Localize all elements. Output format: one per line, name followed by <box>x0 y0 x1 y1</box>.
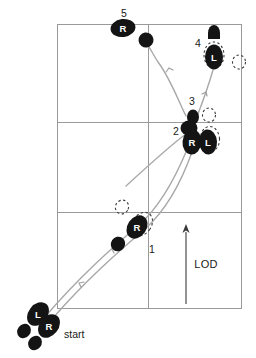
footprint-step-4-left: L <box>205 45 223 70</box>
footwork-diagram-root: L R R R L <box>0 0 256 358</box>
step-number-3: 3 <box>189 95 195 107</box>
step-number-5: 5 <box>121 7 127 19</box>
footprint-label-step-2-right: R <box>189 137 196 148</box>
path-direction-arrows <box>79 68 207 287</box>
ghost-footprints-group <box>113 42 246 240</box>
step-number-4: 4 <box>195 37 201 49</box>
lod-arrow-head-icon <box>182 224 189 233</box>
footwork-diagram-canvas: L R R R L <box>0 0 256 358</box>
footprint-label-step-2-left: L <box>205 137 211 148</box>
heel-mark-step-5 <box>138 32 155 49</box>
footprint-label-start-right: R <box>46 321 53 332</box>
ghost-heel-step-4-right <box>233 55 246 69</box>
ghost-heel-step-1 <box>113 198 131 217</box>
heel-mark-step-4 <box>208 25 220 39</box>
lod-label: LOD <box>194 258 218 270</box>
path-curve-3-to-5 <box>146 42 186 116</box>
step-number-1: 1 <box>149 243 155 255</box>
path-track-inner <box>53 152 192 318</box>
lod-indicator: LOD <box>182 224 217 304</box>
footprint-label-step-1: R <box>134 222 141 233</box>
footprint-label-start-left: L <box>35 309 41 320</box>
footprint-step-2-left: L <box>198 129 218 155</box>
path-arrow-4 <box>166 68 173 72</box>
footprint-label-step-5: R <box>120 23 127 34</box>
step-number-2: 2 <box>173 125 179 137</box>
path-track-outer <box>44 152 186 318</box>
ghost-heel-step-3 <box>203 108 216 122</box>
footprint-step-5-right: R <box>109 17 136 38</box>
start-label: start <box>64 328 85 340</box>
footprint-label-step-4: L <box>211 52 217 63</box>
travel-path-group <box>44 42 213 318</box>
solid-footprints-group: L R R R L <box>14 17 223 353</box>
path-branch-step2 <box>126 134 186 186</box>
